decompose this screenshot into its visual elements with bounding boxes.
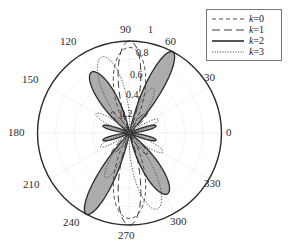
legend-item[interactable]: k=1 xyxy=(211,24,277,35)
angle-tick-270: 270 xyxy=(118,230,135,241)
legend-label-k2: k=2 xyxy=(249,35,264,46)
legend-line-k1 xyxy=(211,25,245,35)
legend: k=0 k=1 k=2 k=3 xyxy=(206,9,282,61)
legend-line-k2 xyxy=(211,36,245,46)
radial-tick-0.4: 0.4 xyxy=(126,90,139,100)
angle-tick-0: 0 xyxy=(226,127,232,138)
radial-tick-0.8: 0.8 xyxy=(136,48,149,58)
legend-label-k1: k=1 xyxy=(249,24,264,35)
angle-tick-180: 180 xyxy=(8,127,25,138)
angle-tick-330: 330 xyxy=(204,178,221,189)
legend-label-k3: k=3 xyxy=(249,46,264,57)
angle-tick-300: 300 xyxy=(170,216,187,227)
legend-item[interactable]: k=3 xyxy=(211,46,277,57)
angle-tick-60: 60 xyxy=(165,36,176,47)
legend-line-k0 xyxy=(211,14,245,24)
legend-item[interactable]: k=0 xyxy=(211,13,277,24)
legend-line-k3 xyxy=(211,47,245,57)
angle-tick-30: 30 xyxy=(204,72,215,83)
polar-figure: 0306090120150180210240270300330 10.80.60… xyxy=(0,0,289,251)
angle-tick-150: 150 xyxy=(22,74,39,85)
angle-tick-120: 120 xyxy=(60,36,77,47)
legend-label-k0: k=0 xyxy=(249,13,264,24)
legend-item[interactable]: k=2 xyxy=(211,35,277,46)
radial-tick-0.6: 0.6 xyxy=(130,70,143,80)
angle-tick-240: 240 xyxy=(63,217,80,228)
angle-tick-210: 210 xyxy=(23,179,40,190)
radial-tick-1: 1 xyxy=(148,25,153,35)
radial-tick-0.2: 0.2 xyxy=(120,109,133,119)
angle-tick-90: 90 xyxy=(120,24,131,35)
